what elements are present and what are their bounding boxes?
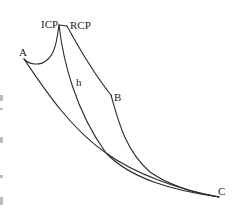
cropped-edge-text [0,175,3,178]
curve-b-to-c [111,95,219,197]
label-c: C [218,186,225,197]
curve-rcp-to-b [67,26,111,95]
label-a: A [19,47,27,58]
label-b: B [114,92,121,103]
cropped-edge-text [0,95,3,101]
label-rcp: RCP [70,20,91,31]
curve-a-to-icp [24,25,59,64]
curve-icp-h-to-c [59,25,219,197]
cropped-edge-text [0,108,3,110]
diagram-canvas [0,0,238,216]
label-icp: ICP [41,19,58,30]
cropped-edge-text [0,137,3,143]
cropped-edge-text [0,197,3,205]
figure-caption [78,211,218,216]
curve-icp-to-rcp [59,25,67,26]
label-h: h [76,77,82,88]
